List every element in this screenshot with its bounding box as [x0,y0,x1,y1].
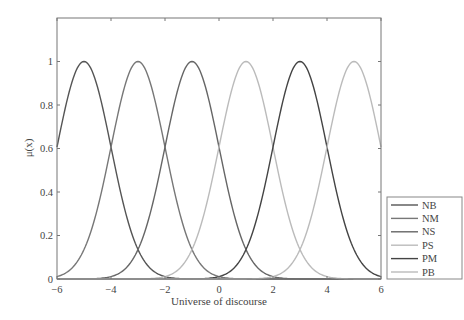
y-axis-ticks: 00.20.40.60.81 [40,56,381,285]
x-tick-label: 6 [378,284,383,295]
y-axis-label: μ(x) [22,138,35,157]
legend-label-pb: PB [422,267,435,278]
membership-function-chart: −6−4−20246 00.20.40.60.81 Universe of di… [0,0,464,320]
x-tick-label: −4 [105,284,117,295]
legend-label-pm: PM [422,253,438,264]
x-axis-label: Universe of discourse [171,295,267,307]
legend-label-nb: NB [422,200,437,211]
y-tick-label: 0.8 [40,100,53,111]
x-tick-label: −6 [51,284,62,295]
legend-label-ps: PS [422,240,434,251]
x-tick-label: 4 [324,284,330,295]
legend: NBNMNSPSPMPB [387,197,462,279]
y-tick-label: 0 [48,274,53,285]
y-tick-label: 1 [48,56,53,67]
x-tick-label: −2 [159,284,170,295]
x-tick-label: 0 [216,284,221,295]
y-tick-label: 0.4 [40,187,54,198]
curves [57,62,381,280]
x-tick-label: 2 [270,284,275,295]
legend-label-ns: NS [422,226,436,237]
legend-label-nm: NM [422,213,440,224]
y-tick-label: 0.2 [40,230,53,241]
y-tick-label: 0.6 [40,143,53,154]
